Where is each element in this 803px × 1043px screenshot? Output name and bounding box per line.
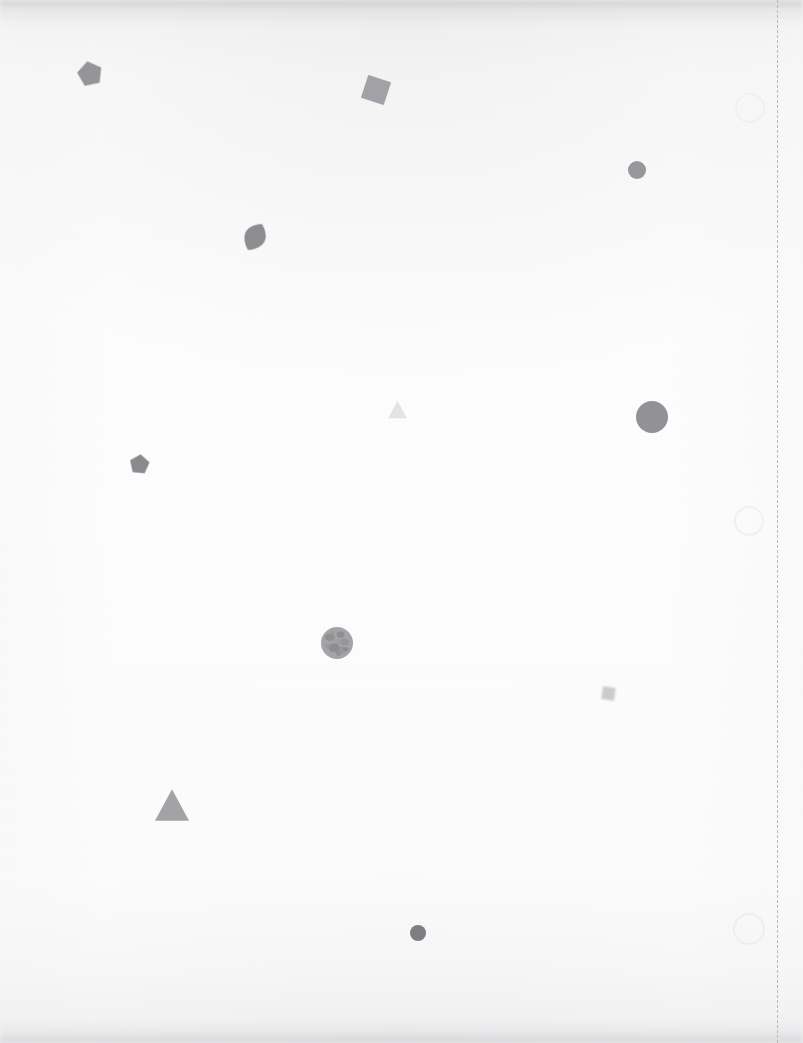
circle-textured-shape <box>317 623 357 663</box>
triangle-pale-shape <box>384 396 411 423</box>
square-pale-shape <box>596 681 620 705</box>
circle-dot-shape <box>406 921 430 945</box>
page-canvas <box>0 0 803 1043</box>
circle-small-shape <box>624 157 650 183</box>
pentagon-shape <box>71 55 109 93</box>
triangle-large-shape <box>151 784 193 826</box>
paper-background <box>0 0 803 1043</box>
pentagon-small-shape <box>124 449 154 479</box>
circle-large-shape <box>632 397 672 437</box>
